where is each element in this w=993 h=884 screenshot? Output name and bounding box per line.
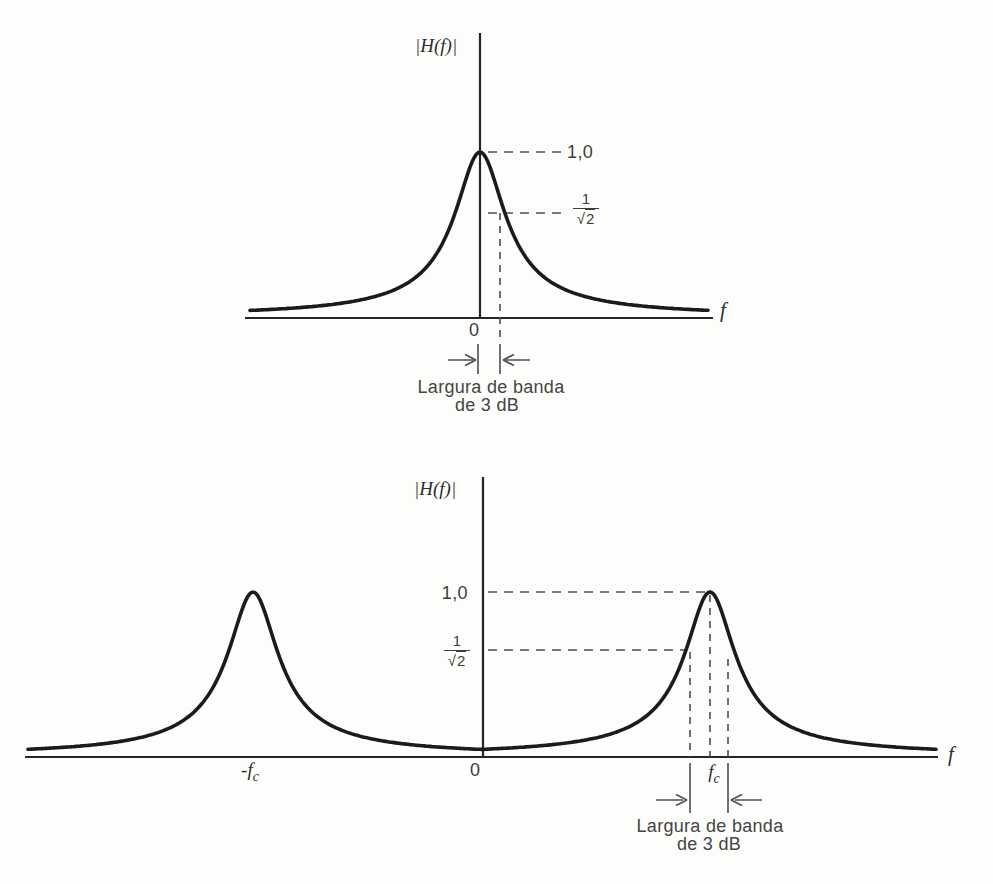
bandpass-center-freq-label: fc	[708, 762, 720, 786]
bandpass-neg-center-freq-label: -fc	[241, 760, 259, 784]
neg-fc-subscript: c	[253, 769, 259, 784]
sqrt-symbol: √	[577, 210, 585, 227]
bandpass-peak-value-label: 1,0	[438, 584, 468, 602]
bandpass-halfpower-fraction: 1 √2	[444, 633, 470, 668]
neg-fc-symbol: -f	[241, 759, 253, 780]
lowpass-bandwidth-label-line1: Largura de banda	[418, 378, 565, 396]
fc-subscript: c	[714, 771, 720, 786]
lowpass-y-axis-label: |H(f)|	[415, 36, 457, 55]
lowpass-peak-value-label: 1,0	[567, 143, 593, 161]
bandpass-bandwidth-label-line1: Largura de banda	[637, 817, 784, 835]
bandpass-y-axis-label: |H(f)|	[414, 479, 456, 498]
lowpass-halfpower-fraction: 1 √2	[573, 191, 599, 226]
lowpass-x-axis-label: f	[720, 300, 726, 321]
bandpass-origin-label: 0	[470, 761, 480, 779]
fraction-numerator: 1	[444, 633, 470, 649]
bandpass-x-axis-label: f	[948, 744, 954, 765]
fraction-denominator: √2	[444, 653, 470, 668]
filter-response-figure: |H(f)| 1,0 1 √2 0 f Largura de banda de …	[0, 0, 993, 884]
bandpass-bandwidth-arrow-left-icon	[731, 795, 762, 806]
sqrt-radicand: 2	[585, 209, 595, 227]
fraction-denominator: √2	[573, 211, 599, 226]
bandpass-bandwidth-label-line2: de 3 dB	[677, 835, 741, 853]
fraction-numerator: 1	[573, 191, 599, 207]
page: { "figure": { "colors": { "background": …	[0, 0, 993, 884]
lowpass-bandwidth-arrow-right-icon	[448, 355, 476, 366]
lowpass-bandwidth-arrow-left-icon	[503, 355, 530, 366]
bandpass-bandwidth-arrow-right-icon	[656, 795, 687, 806]
lowpass-bandwidth-label-line2: de 3 dB	[455, 396, 519, 414]
lowpass-origin-label: 0	[469, 321, 479, 339]
sqrt-symbol: √	[448, 652, 456, 669]
figure-linework	[0, 0, 993, 884]
sqrt-radicand: 2	[456, 651, 466, 669]
